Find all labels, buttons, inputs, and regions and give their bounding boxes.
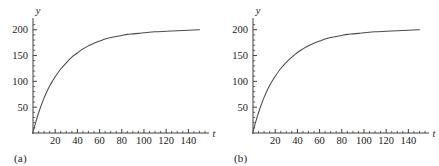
x-axis-tick-label: 20 — [270, 135, 281, 146]
y-axis-tick-label: 150 — [232, 50, 248, 61]
x-axis-label: t — [213, 128, 217, 139]
chart-panel-b: 2040608010012014050100150200ty (b) — [220, 0, 439, 166]
x-axis-tick-label: 100 — [136, 135, 152, 146]
x-axis-tick-label: 100 — [356, 135, 372, 146]
panel-caption-a: (a) — [14, 153, 27, 164]
data-curve — [33, 30, 199, 132]
x-axis-tick-label: 40 — [72, 135, 83, 146]
y-axis-tick-label: 200 — [12, 24, 28, 35]
x-axis-tick-label: 60 — [314, 135, 325, 146]
figure-container: 2040608010012014050100150200ty (a) 20406… — [0, 0, 439, 166]
y-axis-tick-label: 100 — [232, 76, 248, 87]
x-axis-tick-label: 60 — [94, 135, 105, 146]
x-axis-tick-label: 20 — [50, 135, 61, 146]
y-axis-tick-label: 100 — [12, 76, 28, 87]
x-axis-tick-label: 80 — [117, 135, 128, 146]
x-axis-tick-label: 140 — [400, 135, 416, 146]
y-axis-tick-label: 200 — [232, 24, 248, 35]
y-axis-label: y — [35, 5, 41, 16]
x-axis-tick-label: 140 — [180, 135, 196, 146]
panel-caption-b: (b) — [234, 153, 247, 164]
chart-panel-a: 2040608010012014050100150200ty (a) — [0, 0, 219, 166]
x-axis-tick-label: 120 — [158, 135, 174, 146]
x-axis-tick-label: 40 — [292, 135, 303, 146]
y-axis-label: y — [255, 5, 261, 16]
x-axis-tick-label: 120 — [378, 135, 394, 146]
y-axis-tick-label: 50 — [18, 102, 29, 113]
y-axis-tick-label: 50 — [238, 102, 249, 113]
data-curve — [253, 30, 419, 132]
y-axis-tick-label: 150 — [12, 50, 28, 61]
x-axis-label: t — [433, 128, 437, 139]
plot-b: 2040608010012014050100150200ty — [220, 0, 439, 166]
plot-a: 2040608010012014050100150200ty — [0, 0, 219, 166]
x-axis-tick-label: 80 — [337, 135, 348, 146]
